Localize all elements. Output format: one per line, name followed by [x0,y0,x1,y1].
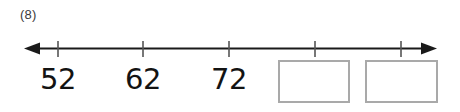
tick-label-72: 72 [194,62,264,96]
answer-box-2[interactable] [365,60,438,103]
tick-label-52: 52 [23,62,93,96]
arrow-right-icon [421,43,437,55]
answer-box-1[interactable] [278,60,350,103]
numberline-worksheet-item: (8) 52 62 72 [0,0,460,112]
arrow-left-icon [24,43,40,55]
tick-label-62: 62 [108,62,178,96]
